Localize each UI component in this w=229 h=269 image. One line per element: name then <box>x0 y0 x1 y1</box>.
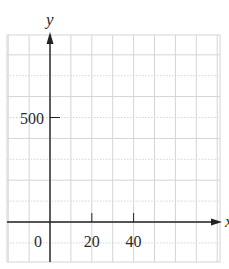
x-tick-label: 40 <box>126 233 142 250</box>
grid-border <box>7 35 220 262</box>
x-tick-label: 0 <box>34 233 42 250</box>
grid-lines <box>7 35 220 262</box>
x-axis-label: x <box>224 212 229 231</box>
y-tick-label: 500 <box>20 110 44 127</box>
axes <box>7 32 222 262</box>
y-axis-label: y <box>44 10 54 29</box>
axis-labels: 02040500xy <box>20 10 229 250</box>
coordinate-grid-chart: 02040500xy <box>0 0 229 269</box>
y-axis-arrow-icon <box>47 32 54 44</box>
x-tick-label: 20 <box>84 233 100 250</box>
